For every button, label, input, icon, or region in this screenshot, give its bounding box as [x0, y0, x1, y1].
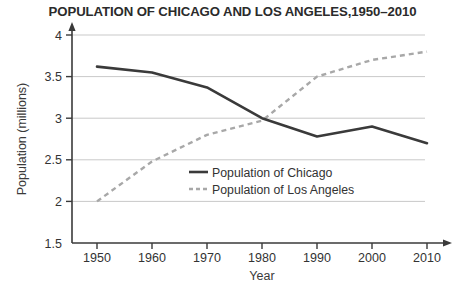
x-axis-title: Year: [249, 269, 274, 283]
legend-label-los-angeles: Population of Los Angeles: [212, 183, 354, 197]
x-tick-label: 2010: [413, 251, 441, 265]
y-axis-title: Population (millions): [15, 83, 29, 196]
x-tick-label: 2000: [358, 251, 386, 265]
x-tick-label: 1960: [138, 251, 166, 265]
legend-label-chicago: Population of Chicago: [212, 166, 332, 180]
chart-legend: Population of Chicago Population of Los …: [189, 166, 354, 197]
x-tick-label: 1990: [303, 251, 331, 265]
y-tick-labels: 1.5 2 2.5 3 3.5 4: [45, 29, 62, 251]
y-tick-label: 2: [55, 195, 62, 209]
x-axis: [72, 239, 452, 249]
y-tick-label: 1.5: [45, 237, 62, 251]
population-line-chart: POPULATION OF CHICAGO AND LOS ANGELES,19…: [0, 0, 465, 287]
y-tick-label: 3.5: [45, 70, 62, 84]
y-tick-label: 3: [55, 112, 62, 126]
chart-plot-area: 1.5 2 2.5 3 3.5 4 1950 1960 1970 1980 19…: [0, 0, 465, 287]
y-axis: [66, 22, 76, 243]
series-line-chicago: [97, 67, 427, 144]
x-tick-label: 1970: [193, 251, 221, 265]
x-tick-label: 1980: [248, 251, 276, 265]
y-tick-label: 2.5: [45, 153, 62, 167]
x-tick-label: 1950: [83, 251, 111, 265]
y-tick-label: 4: [55, 29, 62, 43]
x-tick-labels: 1950 1960 1970 1980 1990 2000 2010: [83, 251, 441, 265]
